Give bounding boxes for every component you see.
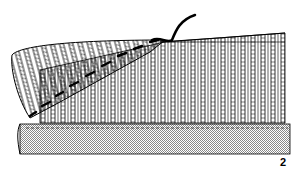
yarn-tail: [152, 15, 195, 41]
base-fabric: [18, 124, 290, 154]
knitting-diagram: [0, 0, 294, 175]
figure-label: 2: [280, 156, 286, 168]
